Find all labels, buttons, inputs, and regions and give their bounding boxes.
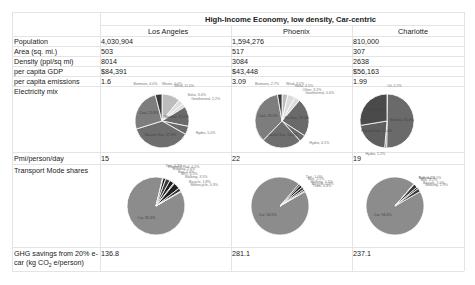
pie-label: Hydro, 4.1% — [309, 141, 330, 145]
cell-value: $43,448 — [232, 67, 258, 76]
cell-value: 22 — [232, 154, 240, 163]
pie-label: Oil, 0.2% — [387, 84, 402, 88]
row-label-pmi: Pmi/person/day — [14, 154, 64, 163]
cell-value: 3084 — [232, 57, 248, 66]
cell-value: 307 — [353, 47, 365, 56]
divider — [100, 25, 464, 26]
cell-value: 4,030,904 — [101, 37, 133, 46]
divider — [12, 247, 464, 248]
transport-pie-charlotte: Car, 94.6%Subway, 0.1%Rail, 0.2%Bus, 2.2… — [355, 165, 460, 247]
table-title: High-Income Economy, low density, Car-ce… — [205, 15, 376, 24]
cell-value: 15 — [101, 154, 109, 163]
divider — [12, 152, 464, 153]
row-label-emissions: per capita emissions — [14, 77, 80, 86]
divider — [464, 12, 465, 271]
pie-label: Tram, 0.4% — [313, 184, 332, 188]
cell-value: 810,000 — [353, 37, 379, 46]
city-header-los-angeles: Los Angeles — [148, 27, 188, 36]
pie-label: Car, 85.3% — [138, 216, 157, 220]
pie-label: Solar, 3.0% — [187, 93, 206, 97]
electricity-pie-los-angeles: Waste, 0.0%Wind, 11.0%Solar, 3.0%Geother… — [110, 86, 230, 152]
pie-label: Nuclear, 23.0% — [285, 116, 310, 120]
pie-label: Natural Gas, 24.0% — [266, 133, 298, 137]
row-label-gdp: per capita GDP — [14, 67, 63, 76]
cell-value: 237.1 — [353, 249, 371, 258]
pie-label: Geothermal, 2.2% — [191, 97, 221, 101]
city-header-phoenix: Phoenix — [283, 27, 310, 36]
cell-value: $56,163 — [353, 67, 379, 76]
pie-label: Natural Gas, 21.0% — [361, 129, 393, 133]
pie-label: Geothermal, 0.0% — [305, 91, 335, 95]
cell-value: 1.99 — [353, 77, 367, 86]
electricity-pie-charlotte: Oil, 0.2%Nuclear, 50.0%Hydro, 1.2%Natura… — [355, 86, 460, 152]
table-border-top — [12, 12, 464, 13]
pie-label: Motorcycle, 0.3% — [190, 183, 218, 187]
row-label-density: Density (ppl/sq mi) — [14, 57, 74, 66]
pie-label: Car, 94.5% — [259, 213, 278, 217]
row-label-transport: Transport Mode shares — [14, 166, 88, 175]
pie-label: Nuclear, 12.0% — [164, 115, 189, 119]
pie-label: Walking, 1.9% — [425, 183, 449, 187]
pie-label: Wind, 11.0% — [174, 84, 195, 88]
ghg-label-line2-pre: car (kg CO — [14, 258, 49, 267]
cell-value: 503 — [101, 47, 113, 56]
cell-value: 1,594,276 — [232, 37, 264, 46]
pie-label: Car, 94.6% — [374, 213, 393, 217]
row-label-area: Area (sq. mi.) — [14, 47, 57, 56]
row-label-electricity-mix: Electricity mix — [14, 87, 58, 96]
city-header-charlotte: Charlotte — [398, 27, 428, 36]
row-label-population: Population — [14, 37, 48, 46]
cell-value: 19 — [353, 154, 361, 163]
cell-value: 2638 — [353, 57, 369, 66]
transport-pie-los-angeles: Car, 85.3%Taxi, 0.3%Regional Rail, 1.5%S… — [110, 165, 230, 247]
cell-value: 3.09 — [232, 77, 246, 86]
divider — [12, 12, 13, 271]
pie-label: Natural Gas, 37.0% — [145, 133, 177, 137]
pie-label: Coal, 27.6% — [366, 108, 386, 112]
row-label-ghg: GHG savings from 20% e- car (kg CO2 e/pe… — [14, 249, 98, 270]
pie-label: Hydro, 5.0% — [196, 131, 217, 135]
cell-value: 136.8 — [101, 249, 119, 258]
transport-pie-phoenix: Car, 94.5%Taxi, 1.0%Bus, 1.5%Walking, 1.… — [238, 165, 350, 247]
pie-label: Biomass, 4.0% — [134, 82, 159, 86]
ghg-label-line1: GHG savings from 20% e- — [14, 249, 98, 258]
pie-label: Walking, 3.5% — [185, 175, 209, 179]
ghg-label-line2-post: e/person) — [52, 258, 84, 267]
cell-value: 8014 — [101, 57, 117, 66]
pie-label: Hydro, 1.2% — [366, 152, 387, 156]
pie-label: Biomass, 2.7% — [255, 82, 280, 86]
pie-label: Nuclear, 50.0% — [390, 118, 415, 122]
cell-value: 281.1 — [232, 249, 250, 258]
cell-value: $84,391 — [101, 67, 127, 76]
cell-value: 1.6 — [101, 77, 111, 86]
table-border-bottom — [12, 271, 464, 272]
electricity-pie-phoenix: Wind, 3.5%Solar, 4.5%Other, 3.2%Geotherm… — [238, 86, 350, 152]
cell-value: 517 — [232, 47, 244, 56]
pie-label: Coal, 25.8% — [139, 111, 159, 115]
pie-label: Coal, 35.0% — [258, 114, 278, 118]
